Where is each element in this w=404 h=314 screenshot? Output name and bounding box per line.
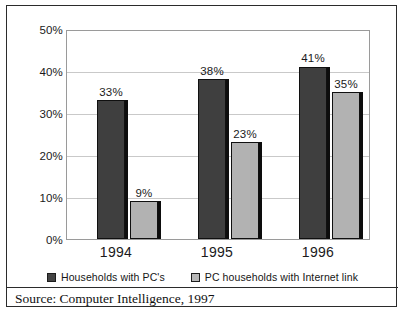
bar-group-1996: 41% 35% [269,31,370,239]
legend-swatch-icon [47,273,56,282]
bar-households-with-pcs-1994[interactable] [97,100,125,239]
legend-label: PC households with Internet link [205,271,358,283]
x-tick-label-1994: 1994 [76,244,156,260]
source-row: Source: Computer Intelligence, 1997 [7,287,398,309]
y-tick-label: 20% [11,150,63,162]
bar-households-with-pcs-1996[interactable] [299,67,327,239]
y-tick-label: 40% [11,66,63,78]
bars-layer: 33% 9% 38% 23% 41% [67,31,369,239]
bar-value-label: 38% [186,65,238,77]
legend-swatch-icon [191,273,200,282]
bar-value-label: 35% [320,78,372,90]
y-tick-label: 0% [11,234,63,246]
x-tick-label-1996: 1996 [278,244,358,260]
figure-border: 50% 40% 30% 20% 10% 0% 33% [6,5,397,307]
bar-value-label: 33% [85,86,137,98]
x-axis: 1994 1995 1996 [66,244,370,262]
plot-area: 33% 9% 38% 23% 41% [66,30,370,240]
x-tick-label-1995: 1995 [177,244,257,260]
bar-pc-households-internet-1994[interactable] [130,201,158,239]
legend-label: Households with PC's [61,271,165,283]
y-tick-label: 50% [11,24,63,36]
legend-item-pc-households-internet[interactable]: PC households with Internet link [191,271,358,283]
chart-figure: 50% 40% 30% 20% 10% 0% 33% [0,0,404,314]
source-note: Source: Computer Intelligence, 1997 [7,291,214,307]
bar-group-1995: 38% 23% [168,31,269,239]
bar-pc-households-internet-1996[interactable] [332,92,360,239]
bar-group-1994: 33% 9% [67,31,168,239]
legend-item-households-with-pcs[interactable]: Households with PC's [47,271,165,283]
bar-chart: 50% 40% 30% 20% 10% 0% 33% [7,6,398,308]
y-tick-label: 30% [11,108,63,120]
chart-legend: Households with PC's PC households with … [7,267,398,287]
bar-value-label: 23% [219,128,271,140]
bar-households-with-pcs-1995[interactable] [198,79,226,239]
y-tick-label: 10% [11,192,63,204]
bar-pc-households-internet-1995[interactable] [231,142,259,239]
y-axis: 50% 40% 30% 20% 10% 0% [7,30,63,240]
bar-value-label: 9% [118,187,170,199]
bar-value-label: 41% [287,52,339,64]
